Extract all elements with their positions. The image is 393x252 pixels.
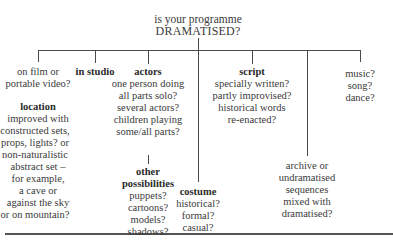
actors-text: several actors? [103, 102, 193, 113]
actors-text: one person doing [103, 78, 193, 89]
film-text: on film or [0, 66, 76, 77]
music-text: dance? [330, 92, 390, 103]
script-heading: script [207, 66, 297, 77]
archive-text: mixed with [267, 196, 347, 207]
archive-text: undramatised [267, 172, 347, 183]
script-text: specially written? [207, 78, 297, 89]
costume-text: historical? [168, 198, 228, 209]
film-drop-line [38, 50, 39, 62]
film-text: portable video? [0, 78, 76, 89]
actors-text: some/all parts? [103, 126, 193, 137]
actors-heading: actors [108, 66, 188, 77]
other-heading: other [108, 166, 188, 177]
location-text: improved with [0, 113, 76, 124]
main-horizontal-bar [38, 50, 361, 51]
script-drop-line [252, 50, 253, 64]
location-text: a cave or [0, 185, 76, 196]
archive-drop-line [307, 50, 308, 156]
location-text: for example, [0, 173, 76, 184]
archive-text: sequences [267, 184, 347, 195]
location-text: or on mountain? [0, 209, 76, 220]
actors-text: all parts solo? [103, 90, 193, 101]
actors-text: children playing [103, 114, 193, 125]
costume-drop-line [198, 50, 199, 182]
costume-heading: costume [168, 186, 228, 197]
location-heading: location [0, 101, 76, 112]
actors-to-other-line [148, 155, 149, 164]
location-text: constructed sets, [0, 125, 76, 136]
costume-text: casual? [168, 222, 228, 233]
music-drop-line [360, 50, 361, 62]
location-text: non-naturalistic [0, 149, 76, 160]
diagram-title-line2: DRAMATISED? [148, 25, 248, 38]
location-text: props, lights? or [0, 137, 76, 148]
bottom-rule [5, 233, 393, 235]
music-text: music? [330, 68, 390, 79]
script-text: partly improvised? [207, 90, 297, 101]
title-stem-line [198, 38, 199, 50]
archive-text: archive or [267, 160, 347, 171]
costume-text: formal? [168, 210, 228, 221]
script-text: historical words [207, 102, 297, 113]
music-text: song? [330, 80, 390, 91]
script-text: re-enacted? [207, 114, 297, 125]
actors-drop-line [148, 50, 149, 64]
location-text: against the sky [0, 197, 76, 208]
location-text: abstract set – [0, 161, 76, 172]
archive-text: dramatised? [267, 208, 347, 219]
studio-drop-line [95, 50, 96, 63]
